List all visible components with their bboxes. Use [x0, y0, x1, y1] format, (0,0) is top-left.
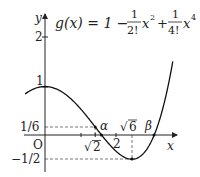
formula-frac1-denominator: 2!	[127, 24, 138, 37]
y-axis-label: y	[34, 11, 42, 25]
sqrt-symbol: √	[120, 120, 128, 134]
y-tick-label-2: 2	[35, 30, 43, 44]
x-tick-label-2: 2	[113, 137, 121, 151]
y-tick-label-one-sixth: 1/6	[20, 120, 39, 134]
point-beta	[153, 134, 156, 137]
formula-lhs: g(x) = 1 −	[55, 15, 129, 31]
beta-label: β	[144, 119, 152, 133]
formula-term2: x	[183, 16, 191, 31]
point-alpha	[100, 134, 103, 137]
formula-plus: +	[157, 16, 168, 31]
x-axis-label: x	[167, 139, 174, 153]
formula-term1: x	[142, 16, 150, 31]
sqrt6-label: √ 6	[120, 120, 137, 134]
sqrt-argument: 2	[93, 140, 101, 154]
point-minimum	[131, 158, 134, 161]
formula-exp1: 2	[150, 13, 155, 22]
x-tick-label-sqrt2: √ 2	[84, 140, 101, 154]
sqrt-argument: 6	[129, 120, 137, 134]
formula-exp2: 4	[191, 13, 196, 22]
formula-frac2-numerator: 1	[172, 8, 179, 21]
point-sqrt2-one-sixth	[94, 126, 97, 129]
function-plot: y x O 2 1 1/6 −1/2 √ 2 2 α √ 6 β g(x) = …	[0, 0, 200, 177]
alpha-label: α	[100, 119, 108, 133]
y-tick-label-neg-half: −1/2	[11, 152, 40, 166]
formula-title: g(x) = 1 − 1 2! x 2 + 1 4! x 4	[55, 8, 196, 37]
sqrt-symbol: √	[84, 140, 92, 154]
formula-frac1-numerator: 1	[131, 8, 138, 21]
formula-frac2-denominator: 4!	[168, 24, 179, 37]
origin-label: O	[33, 138, 43, 152]
y-tick-label-1: 1	[36, 74, 44, 88]
